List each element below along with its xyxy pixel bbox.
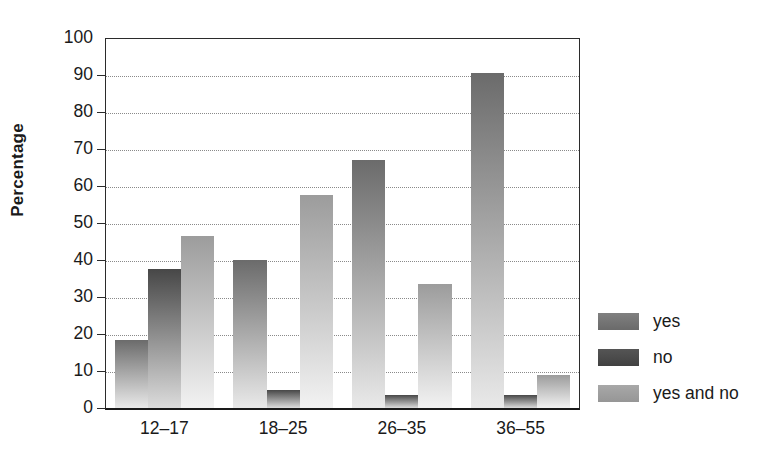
gridline — [106, 335, 579, 336]
y-axis-tick-label: 100 — [33, 29, 93, 47]
x-axis-tick-label: 36–55 — [496, 418, 545, 439]
gridline — [106, 187, 579, 188]
gridline — [106, 298, 579, 299]
y-axis-title: Percentage — [8, 90, 28, 250]
y-axis-tick-label: 20 — [33, 325, 93, 343]
legend: yesnoyes and no — [598, 303, 764, 411]
gridline — [106, 224, 579, 225]
y-axis-tick-mark — [97, 75, 105, 76]
legend-label: yes and no — [653, 383, 739, 404]
y-axis-tick-label: 80 — [33, 103, 93, 121]
legend-item: no — [598, 339, 764, 375]
gridline — [106, 150, 579, 151]
legend-label: no — [653, 347, 672, 368]
y-axis-tick-label: 40 — [33, 251, 93, 269]
legend-swatch — [598, 313, 639, 330]
x-axis-tick-label: 12–17 — [140, 418, 189, 439]
y-axis-tick-mark — [97, 297, 105, 298]
y-axis-tick-mark — [97, 112, 105, 113]
gridline — [106, 261, 579, 262]
legend-swatch — [598, 349, 639, 366]
y-axis-tick-mark — [97, 223, 105, 224]
y-axis-tick-label: 90 — [33, 66, 93, 84]
x-axis-tick-labels: 12–1718–2526–3536–55 — [105, 418, 580, 448]
y-axis-tick-label: 50 — [33, 214, 93, 232]
x-axis-tick-label: 26–35 — [378, 418, 427, 439]
legend-item: yes — [598, 303, 764, 339]
bar-chart-figure: Percentage 0102030405060708090100 12–171… — [0, 0, 768, 461]
legend-label: yes — [653, 311, 680, 332]
gridline — [106, 113, 579, 114]
gridlines — [106, 39, 579, 408]
y-axis-tick-label: 0 — [33, 399, 93, 417]
gridline — [106, 372, 579, 373]
y-axis-tick-mark — [97, 408, 105, 409]
y-axis-tick-mark — [97, 149, 105, 150]
y-axis-tick-label: 30 — [33, 288, 93, 306]
legend-item: yes and no — [598, 375, 764, 411]
plot-area — [105, 38, 580, 410]
y-axis-tick-mark — [97, 186, 105, 187]
legend-swatch — [598, 385, 639, 402]
y-axis-tick-label: 70 — [33, 140, 93, 158]
x-axis-tick-label: 18–25 — [259, 418, 308, 439]
y-axis-tick-mark — [97, 334, 105, 335]
y-axis-tick-label: 60 — [33, 177, 93, 195]
y-axis-tick-label: 10 — [33, 362, 93, 380]
y-axis-tick-mark — [97, 371, 105, 372]
gridline — [106, 76, 579, 77]
y-axis-tick-mark — [97, 260, 105, 261]
